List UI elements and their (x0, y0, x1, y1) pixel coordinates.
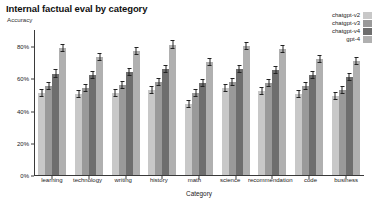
bar-code-chatgpt-v3[interactable] (302, 30, 309, 175)
bar-history-gpt-4[interactable] (169, 30, 176, 175)
x-tick-label-learning: learning (34, 177, 70, 189)
error-bar (261, 87, 262, 95)
error-bar (122, 81, 123, 89)
x-tick-label-writing: writing (105, 177, 141, 189)
bar-rect (59, 48, 66, 175)
bar-group-business (327, 30, 364, 175)
bar-rect (45, 86, 52, 175)
bar-group-writing (107, 30, 144, 175)
legend-item-chatgpt-v3[interactable]: chatgpt-v3 (332, 19, 372, 27)
bar-business-chatgpt-v4[interactable] (346, 30, 353, 175)
bar-rect (96, 57, 103, 175)
chart-title: Internal factual eval by category (6, 3, 147, 14)
bar-writing-chatgpt-v3[interactable] (119, 30, 126, 175)
bar-rect (52, 74, 59, 176)
bar-rect (82, 88, 89, 175)
bar-code-gpt-4[interactable] (316, 30, 323, 175)
legend-label: chatgpt-v2 (332, 11, 360, 19)
error-bar (85, 84, 86, 92)
bar-rect (119, 85, 126, 175)
bar-math-chatgpt-v4[interactable] (199, 30, 206, 175)
bar-rect (199, 83, 206, 175)
bar-technology-chatgpt-v4[interactable] (89, 30, 96, 175)
bar-group-code (291, 30, 328, 175)
bar-rect (295, 94, 302, 175)
error-bar (62, 44, 63, 52)
x-axis-title: Category (34, 190, 364, 197)
bar-learning-chatgpt-v4[interactable] (52, 30, 59, 175)
bar-math-gpt-4[interactable] (206, 30, 213, 175)
bar-group-learning (34, 30, 71, 175)
bar-technology-chatgpt-v2[interactable] (75, 30, 82, 175)
chart-subtitle: Accuracy (7, 16, 32, 23)
bar-rect (38, 93, 45, 175)
error-bar (342, 86, 343, 94)
error-bar (41, 89, 42, 97)
bar-history-chatgpt-v2[interactable] (148, 30, 155, 175)
bar-recommendation-gpt-4[interactable] (279, 30, 286, 175)
error-bar (319, 55, 320, 63)
error-bar (202, 79, 203, 87)
bar-group-history (144, 30, 181, 175)
bar-code-chatgpt-v2[interactable] (295, 30, 302, 175)
bar-learning-gpt-4[interactable] (59, 30, 66, 175)
error-bar (195, 89, 196, 97)
bar-learning-chatgpt-v3[interactable] (45, 30, 52, 175)
bar-math-chatgpt-v3[interactable] (192, 30, 199, 175)
bar-rect (126, 72, 133, 175)
chart-container: Internal factual eval by category Accura… (0, 0, 374, 212)
bar-group-math (181, 30, 218, 175)
error-bar (165, 65, 166, 73)
bar-math-chatgpt-v2[interactable] (185, 30, 192, 175)
bar-writing-gpt-4[interactable] (133, 30, 140, 175)
error-bar (92, 71, 93, 79)
bar-learning-chatgpt-v2[interactable] (38, 30, 45, 175)
bar-rect (192, 93, 199, 175)
x-tick-label-math: math (177, 177, 213, 189)
bar-rect (309, 75, 316, 175)
error-bar (246, 42, 247, 50)
bar-rect (332, 96, 339, 175)
bar-business-chatgpt-v3[interactable] (339, 30, 346, 175)
bar-science-gpt-4[interactable] (243, 30, 250, 175)
bar-science-chatgpt-v2[interactable] (222, 30, 229, 175)
legend-swatch-icon (363, 36, 372, 43)
x-axis-labels: learningtechnologywritinghistorymathscie… (34, 177, 364, 189)
bar-rect (133, 51, 140, 175)
bar-history-chatgpt-v3[interactable] (155, 30, 162, 175)
bar-history-chatgpt-v4[interactable] (162, 30, 169, 175)
bar-recommendation-chatgpt-v3[interactable] (265, 30, 272, 175)
bar-rect (169, 45, 176, 176)
error-bar (298, 90, 299, 98)
bar-rect (272, 70, 279, 175)
x-tick-label-business: business (328, 177, 364, 189)
legend-swatch-icon (363, 20, 372, 27)
bar-writing-chatgpt-v2[interactable] (112, 30, 119, 175)
error-bar (78, 90, 79, 98)
bar-group-recommendation (254, 30, 291, 175)
bar-business-gpt-4[interactable] (353, 30, 360, 175)
error-bar (335, 92, 336, 100)
bar-rect (162, 69, 169, 175)
bar-recommendation-chatgpt-v2[interactable] (258, 30, 265, 175)
error-bar (209, 58, 210, 66)
bar-rect (346, 77, 353, 175)
error-bar (275, 66, 276, 74)
x-tick-label-history: history (141, 177, 177, 189)
error-bar (312, 71, 313, 79)
bar-rect (243, 46, 250, 175)
bar-writing-chatgpt-v4[interactable] (126, 30, 133, 175)
error-bar (136, 47, 137, 55)
bar-business-chatgpt-v2[interactable] (332, 30, 339, 175)
bar-recommendation-chatgpt-v4[interactable] (272, 30, 279, 175)
legend-item-chatgpt-v2[interactable]: chatgpt-v2 (332, 11, 372, 19)
error-bar (356, 57, 357, 65)
bar-code-chatgpt-v4[interactable] (309, 30, 316, 175)
bar-science-chatgpt-v3[interactable] (229, 30, 236, 175)
x-tick-label-science: science (212, 177, 248, 189)
bar-technology-gpt-4[interactable] (96, 30, 103, 175)
bar-rect (155, 82, 162, 175)
bar-science-chatgpt-v4[interactable] (236, 30, 243, 175)
bar-technology-chatgpt-v3[interactable] (82, 30, 89, 175)
bar-rect (339, 90, 346, 175)
